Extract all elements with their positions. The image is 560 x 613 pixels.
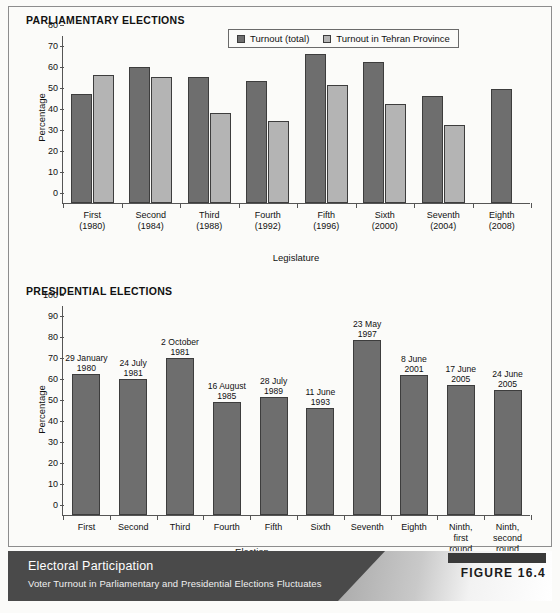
y-axis-tick-1-10: 100 <box>43 290 63 300</box>
y-axis-tick-1-9: 90 <box>48 311 63 321</box>
bar-slot: 29 January1980 <box>63 306 110 515</box>
bar-date-label: 24 July1981 <box>120 358 147 378</box>
x-axis-tick <box>473 203 474 208</box>
y-axis-tick-1-6: 60 <box>48 374 63 384</box>
bar <box>71 94 92 203</box>
bar-group: Sixth(2000) <box>356 36 415 203</box>
bar-group: 11 June1993Sixth <box>297 306 344 515</box>
bar <box>305 54 326 203</box>
x-axis-tick-end <box>531 203 532 208</box>
bar-group: Fourth(1992) <box>239 36 298 203</box>
y-axis-tick-0-8: 80 <box>48 20 63 30</box>
legend-item-total: Turnout (total) <box>237 33 309 44</box>
bar: 29 January1980 <box>72 374 100 515</box>
bar-slot: 24 June2005 <box>484 306 531 515</box>
y-axis-tick-1-0: 0 <box>53 500 63 510</box>
bar-date-label: 23 May1997 <box>353 319 381 339</box>
figure-container: PARLIAMENTARY ELECTIONS 0102030405060708… <box>0 0 560 613</box>
x-axis-tick <box>122 203 123 208</box>
bar <box>93 75 114 203</box>
bar <box>363 62 384 203</box>
bar-slot: 28 July1989 <box>250 306 297 515</box>
x-axis-category-label: Sixth(2000) <box>372 210 398 232</box>
legend-swatch-icon-tehran <box>323 35 331 43</box>
bar: 28 July1989 <box>260 397 288 515</box>
bar: 2 October1981 <box>166 358 194 516</box>
x-axis-tick <box>297 515 298 520</box>
bar <box>188 77 209 203</box>
bar-group: Seventh(2004) <box>414 36 473 203</box>
x-axis-category-label: Eighth(2008) <box>489 210 515 232</box>
bar-slot: 23 May1997 <box>344 306 391 515</box>
bar <box>385 104 406 203</box>
x-axis-tick <box>157 515 158 520</box>
bar-group: Fifth(1996) <box>297 36 356 203</box>
bar-group: Third(1988) <box>180 36 239 203</box>
x-axis-tick-end <box>531 515 532 520</box>
bar-slot: 17 June2005 <box>437 306 484 515</box>
x-axis-category-label: Eighth <box>401 522 427 533</box>
caption-title: Electoral Participation <box>28 559 154 573</box>
bar-slot <box>122 36 181 203</box>
bar-slot <box>473 36 532 203</box>
bar <box>151 77 172 203</box>
x-axis-category-label: Fourth <box>214 522 240 533</box>
x-axis-tick <box>356 203 357 208</box>
legend-label-total: Turnout (total) <box>250 33 309 44</box>
figure-caption-bar: Electoral Participation Voter Turnout in… <box>8 551 552 601</box>
x-axis-category-label: Second(1984) <box>135 210 166 232</box>
bar-slot <box>414 36 473 203</box>
y-axis-tick-1-4: 40 <box>48 416 63 426</box>
bar-group: 8 June2001Eighth <box>391 306 438 515</box>
bar-date-label: 2 October1981 <box>161 337 199 357</box>
y-axis-tick-1-8: 80 <box>48 332 63 342</box>
bar-group: 17 June2005Ninth,firstround <box>437 306 484 515</box>
bar: 8 June2001 <box>400 375 428 515</box>
legend-label-tehran: Turnout in Tehran Province <box>336 33 450 44</box>
bar-date-label: 17 June2005 <box>445 364 476 384</box>
bar-slot: 24 July1981 <box>110 306 157 515</box>
bar-date-label: 29 January1980 <box>65 353 108 373</box>
bar-slot <box>180 36 239 203</box>
x-axis-tick <box>239 203 240 208</box>
x-axis-tick <box>391 515 392 520</box>
x-axis-tick <box>63 515 64 520</box>
bar: 24 June2005 <box>494 390 522 515</box>
bar-group: 28 July1989Fifth <box>250 306 297 515</box>
x-axis-category-label: Seventh <box>351 522 384 533</box>
bar <box>422 96 443 203</box>
x-axis-tick <box>484 515 485 520</box>
bar-slot: 8 June2001 <box>391 306 438 515</box>
y-axis-tick-0-1: 10 <box>48 167 63 177</box>
y-axis-tick-0-7: 70 <box>48 41 63 51</box>
bar-date-label: 16 August1985 <box>208 381 246 401</box>
bar-date-label: 24 June2005 <box>492 369 523 389</box>
bar-date-label: 28 July1989 <box>260 376 287 396</box>
x-axis-category-label: Fifth <box>265 522 283 533</box>
bar <box>327 85 348 203</box>
x-axis-category-label: Fifth(1996) <box>313 210 339 232</box>
bar: 17 June2005 <box>447 385 475 515</box>
figure-badge-bar <box>448 553 546 563</box>
bar-slot <box>63 36 122 203</box>
y-axis-tick-0-6: 60 <box>48 62 63 72</box>
bar-group: 23 May1997Seventh <box>344 306 391 515</box>
y-axis-tick-1-3: 30 <box>48 437 63 447</box>
bar <box>444 125 465 203</box>
x-axis-category-label: Sixth <box>310 522 330 533</box>
caption-subtitle: Voter Turnout in Parliamentary and Presi… <box>28 578 322 589</box>
legend-item-tehran: Turnout in Tehran Province <box>323 33 450 44</box>
y-axis-tick-1-7: 70 <box>48 353 63 363</box>
x-axis-category-label: Fourth(1992) <box>255 210 281 232</box>
y-axis-tick-1-5: 50 <box>48 395 63 405</box>
x-axis-tick <box>414 203 415 208</box>
y-axis-tick-0-2: 20 <box>48 146 63 156</box>
bar-date-label: 11 June1993 <box>305 387 335 407</box>
y-axis-tick-0-3: 30 <box>48 125 63 135</box>
bar <box>491 89 512 203</box>
x-axis-tick <box>250 515 251 520</box>
parliamentary-x-axis-label: Legislature <box>62 252 530 263</box>
x-axis-category-label: First(1980) <box>79 210 105 232</box>
bar-group: First(1980) <box>63 36 122 203</box>
x-axis-tick <box>110 515 111 520</box>
